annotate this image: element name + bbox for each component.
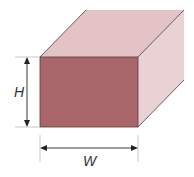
h-arrow-top-icon — [24, 57, 30, 64]
h-arrow-bottom-icon — [24, 120, 30, 127]
w-arrow-right-icon — [131, 145, 138, 151]
h-label: H — [14, 84, 25, 100]
prism-diagram: H W — [0, 0, 194, 177]
front-face — [40, 57, 138, 127]
w-arrow-left-icon — [40, 145, 47, 151]
w-label: W — [83, 153, 98, 169]
